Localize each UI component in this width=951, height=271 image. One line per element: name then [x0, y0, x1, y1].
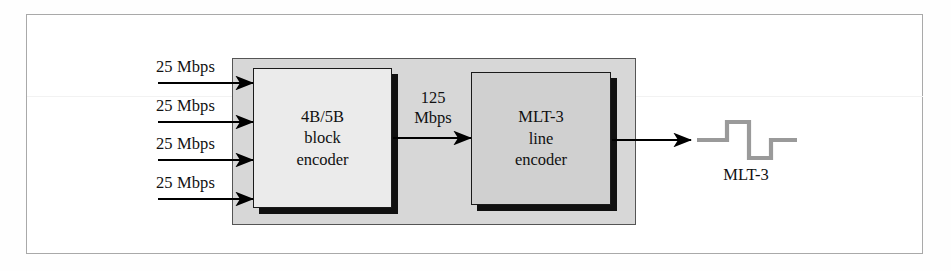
block-encoder-line-1: 4B/5B [301, 106, 344, 127]
figure-root: 4B/5B block encoder MLT-3 line encoder 2… [0, 0, 951, 271]
line-encoder-line-2: line [529, 128, 554, 149]
line-encoder-box[interactable]: MLT-3 line encoder [471, 72, 611, 205]
input-rate-label-3: 25 Mbps [156, 134, 215, 154]
input-rate-label-1: 25 Mbps [156, 57, 215, 77]
internal-rate-label: 125 Mbps [397, 88, 469, 128]
output-waveform-caption: MLT-3 [693, 165, 799, 185]
internal-rate-unit: Mbps [397, 108, 469, 128]
line-encoder-line-3: encoder [515, 149, 567, 170]
line-encoder-line-1: MLT-3 [518, 106, 564, 127]
internal-rate-value: 125 [397, 88, 469, 108]
input-rate-label-2: 25 Mbps [156, 96, 215, 116]
block-encoder-line-2: block [304, 127, 341, 148]
input-rate-label-4: 25 Mbps [156, 173, 215, 193]
block-encoder-box[interactable]: 4B/5B block encoder [253, 68, 392, 208]
block-encoder-line-3: encoder [296, 149, 348, 170]
